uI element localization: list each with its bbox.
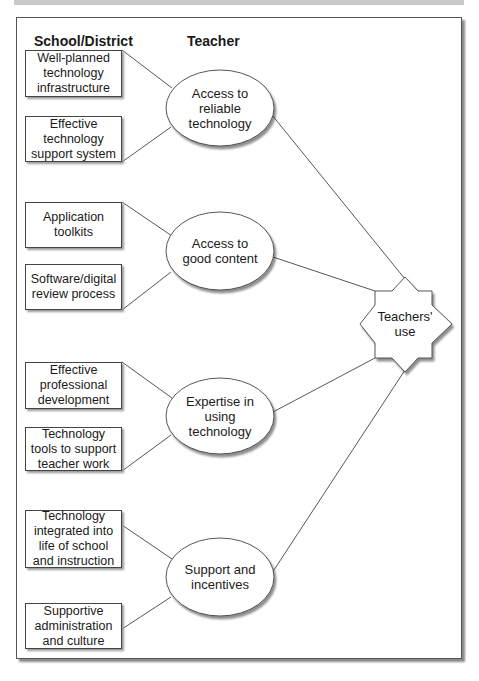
box-technology-tools: Technology tools to support teacher work [25, 427, 122, 471]
connector-line [122, 272, 171, 310]
label-reliable-technology: Access to reliable technology [180, 78, 260, 138]
label-text: Access to reliable technology [180, 86, 260, 131]
label-expertise: Expertise in using technology [180, 386, 260, 446]
connector-line [122, 435, 171, 471]
label-teachers-use: Teachers' use [372, 304, 438, 344]
label-text: Access to good content [176, 236, 264, 266]
header-school-district: School/District [34, 33, 133, 49]
label-text: Teachers' use [372, 309, 438, 339]
label-text: Support and incentives [178, 562, 262, 592]
box-technology-integrated: Technology integrated into life of schoo… [25, 510, 122, 568]
box-professional-development: Effective professional development [25, 362, 122, 409]
connector-line [273, 358, 375, 412]
ellipses [166, 70, 274, 616]
label-text: Expertise in using technology [180, 394, 260, 439]
connector-line [122, 202, 172, 236]
connector-line [122, 50, 172, 88]
connector-line [122, 597, 171, 629]
box-well-planned-infrastructure: Well-planned technology infrastructure [25, 50, 122, 97]
box-supportive-administration: Supportive administration and culture [25, 603, 122, 649]
connector-line [273, 257, 375, 291]
connectors [122, 50, 405, 629]
label-support-incentives: Support and incentives [178, 552, 262, 602]
label-good-content: Access to good content [176, 226, 264, 276]
connector-line [122, 127, 171, 162]
connector-line [122, 362, 172, 398]
connector-line [122, 525, 172, 559]
connector-line [272, 370, 405, 573]
header-teacher: Teacher [187, 33, 240, 49]
connector-line [272, 115, 405, 279]
box-software-review-process: Software/digital review process [25, 264, 122, 310]
box-application-toolkits: Application toolkits [25, 202, 122, 248]
box-tech-support-system: Effective technology support system [25, 116, 122, 162]
